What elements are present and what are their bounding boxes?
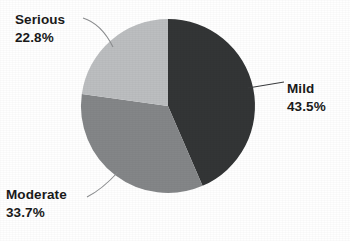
- pie-label-moderate-value: 33.7%: [6, 204, 67, 222]
- pie-label-mild: Mild 43.5%: [287, 80, 326, 115]
- pie-label-moderate: Moderate 33.7%: [6, 186, 67, 221]
- leader-line-moderate: [87, 172, 118, 197]
- pie-chart: Serious 22.8% Mild 43.5% Moderate 33.7%: [0, 0, 350, 241]
- pie-slice-serious[interactable]: [82, 19, 168, 106]
- pie-label-mild-value: 43.5%: [287, 98, 326, 116]
- pie-label-serious: Serious 22.8%: [15, 11, 65, 46]
- pie-label-serious-value: 22.8%: [15, 29, 65, 47]
- pie-label-serious-name: Serious: [15, 11, 65, 29]
- pie-label-moderate-name: Moderate: [6, 186, 67, 204]
- pie-label-mild-name: Mild: [287, 80, 326, 98]
- leader-line-mild: [248, 82, 284, 88]
